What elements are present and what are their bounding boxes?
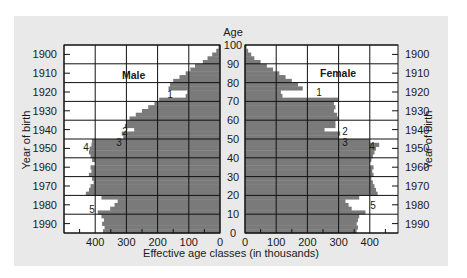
- male-bar: [89, 150, 220, 154]
- annotation-female-3: 3: [342, 137, 348, 148]
- female-x-tick: 300: [329, 236, 347, 248]
- female-bar: [245, 188, 376, 192]
- year-tick: 1920: [33, 86, 57, 98]
- male-bar: [118, 199, 220, 203]
- female-bar: [245, 150, 374, 154]
- female-x-tick: 0: [242, 236, 248, 248]
- male-panel-label: Male: [122, 69, 146, 81]
- year-tick: 1980: [405, 199, 429, 211]
- male-x-tick: 200: [148, 236, 166, 248]
- female-bar: [245, 113, 337, 117]
- female-bar: [245, 184, 374, 188]
- age-tick: 20: [227, 189, 239, 201]
- annotation-male-2: 2: [122, 126, 128, 137]
- male-bar: [122, 131, 220, 135]
- female-bar: [245, 199, 345, 203]
- age-tick: 90: [227, 58, 239, 70]
- female-bar: [245, 124, 335, 128]
- female-x-tick: 400: [361, 236, 379, 248]
- female-bar: [245, 64, 267, 68]
- male-bar: [190, 68, 220, 72]
- female-bar: [245, 68, 273, 72]
- year-tick: 1990: [33, 218, 57, 230]
- year-tick: 1990: [405, 218, 429, 230]
- year-tick: 1900: [33, 48, 57, 60]
- male-bar: [89, 188, 220, 192]
- female-bar: [245, 56, 254, 60]
- age-tick: 100: [224, 39, 242, 51]
- male-bar: [154, 101, 220, 105]
- female-bar: [245, 222, 357, 226]
- female-bar: [245, 75, 286, 79]
- age-tick: 50: [227, 133, 239, 145]
- male-bar: [104, 218, 220, 222]
- female-bar: [245, 207, 352, 211]
- female-bar: [245, 165, 374, 169]
- year-tick: 1930: [33, 105, 57, 117]
- male-bar: [148, 105, 220, 109]
- age-tick: 10: [227, 208, 239, 220]
- age-tick: 70: [227, 95, 239, 107]
- female-panel-label: Female: [320, 67, 356, 79]
- female-bar: [245, 177, 371, 181]
- male-bar: [136, 113, 220, 117]
- female-x-tick: 100: [267, 236, 285, 248]
- male-bar: [125, 124, 220, 128]
- female-bar: [245, 101, 334, 105]
- annotation-female-4: 4: [369, 141, 375, 152]
- female-bar: [245, 86, 303, 90]
- annotation-male-4: 4: [83, 142, 89, 153]
- year-tick: 1960: [405, 161, 429, 173]
- year-tick: 1950: [405, 142, 429, 154]
- male-bar: [186, 71, 220, 75]
- male-x-tick: 400: [86, 236, 104, 248]
- male-bar: [195, 64, 220, 68]
- female-bar: [245, 218, 358, 222]
- year-tick: 1970: [405, 180, 429, 192]
- female-bar: [245, 147, 376, 151]
- female-bar: [245, 195, 359, 199]
- annotation-male-3: 3: [116, 137, 122, 148]
- left-y-axis-title: Year of birth: [20, 111, 32, 170]
- male-bar: [94, 180, 220, 184]
- x-axis-title: Effective age classes (in thousands): [143, 247, 319, 259]
- female-bar: [245, 131, 340, 135]
- male-bar: [179, 75, 220, 79]
- year-tick: 1930: [405, 105, 429, 117]
- year-tick: 1940: [405, 124, 429, 136]
- male-bar: [92, 139, 220, 143]
- male-bar: [92, 158, 220, 162]
- year-tick: 1980: [33, 199, 57, 211]
- population-pyramid-chart: Male Female Age Effective age classes (i…: [0, 0, 467, 278]
- year-tick: 1970: [33, 180, 57, 192]
- age-axis-title: Age: [223, 26, 243, 38]
- year-tick: 1900: [405, 48, 429, 60]
- male-bar: [134, 128, 220, 132]
- male-x-tick: 100: [180, 236, 198, 248]
- year-tick: 1940: [33, 124, 57, 136]
- male-bar: [105, 225, 220, 229]
- age-tick: 30: [227, 171, 239, 183]
- male-bar: [102, 222, 220, 226]
- female-bar: [245, 109, 334, 113]
- annotation-female-5: 5: [370, 200, 376, 211]
- male-bar: [101, 214, 220, 218]
- female-bar: [245, 105, 335, 109]
- female-bar: [245, 83, 298, 87]
- male-bar: [142, 109, 220, 113]
- annotation-male-5: 5: [89, 204, 95, 215]
- male-bar: [101, 195, 220, 199]
- male-bar: [187, 90, 220, 94]
- female-bar: [245, 128, 325, 132]
- year-tick: 1910: [33, 67, 57, 79]
- year-tick: 1960: [33, 161, 57, 173]
- female-x-tick: 200: [298, 236, 316, 248]
- female-bar: [245, 71, 279, 75]
- annotation-female-2: 2: [342, 126, 348, 137]
- male-bar: [91, 184, 220, 188]
- male-bar: [92, 177, 220, 181]
- female-bar: [245, 143, 379, 147]
- female-bar: [245, 169, 372, 173]
- annotation-male-1: 1: [167, 89, 173, 100]
- year-tick: 1920: [405, 86, 429, 98]
